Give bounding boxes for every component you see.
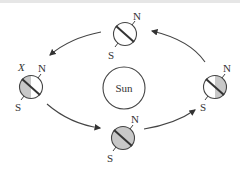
arrow-bottom-to-right bbox=[144, 110, 195, 129]
north-label: N bbox=[133, 10, 141, 22]
arrow-top-to-left bbox=[50, 32, 101, 55]
north-label: N bbox=[223, 62, 231, 74]
north-label: N bbox=[38, 62, 46, 74]
marker-x-label: X bbox=[17, 61, 26, 73]
arrow-right-to-top bbox=[152, 31, 205, 62]
south-label: S bbox=[107, 152, 113, 164]
sun: Sun bbox=[103, 67, 145, 109]
earth-right: N S bbox=[200, 62, 231, 113]
earth-left: X N S bbox=[15, 61, 46, 113]
earth-bottom: N S bbox=[107, 113, 139, 164]
earth-top: N S bbox=[108, 10, 141, 61]
orbit-diagram: Sun N S X N S N S bbox=[0, 0, 240, 173]
arrow-left-to-bottom bbox=[47, 104, 100, 128]
south-label: S bbox=[108, 49, 114, 61]
north-label: N bbox=[131, 113, 139, 125]
south-label: S bbox=[200, 101, 206, 113]
sun-label: Sun bbox=[115, 82, 133, 94]
south-label: S bbox=[15, 101, 21, 113]
